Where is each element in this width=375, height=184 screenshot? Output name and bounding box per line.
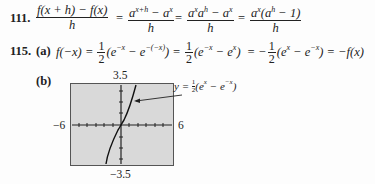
- arrow-head: [134, 99, 140, 104]
- arrow-line: [136, 95, 182, 101]
- curve-label: y = 12(ex − e−x): [174, 78, 236, 94]
